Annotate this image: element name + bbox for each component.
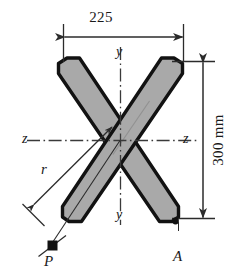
point-a-marker-icon bbox=[172, 218, 179, 225]
radius-reference-line bbox=[53, 141, 121, 243]
point-a-marker-group bbox=[172, 218, 179, 231]
y-axis-label-top: y bbox=[116, 44, 122, 60]
z-axis-label-left: z bbox=[22, 131, 27, 147]
radius-label: r bbox=[41, 161, 47, 178]
point-a-label: A bbox=[173, 248, 182, 265]
point-p-label: P bbox=[44, 253, 53, 270]
radius-witness-tick bbox=[23, 204, 45, 226]
width-dimension-label: 225 bbox=[89, 9, 112, 26]
cross-section-figure: 225 300 mm y y z z r P A bbox=[0, 0, 241, 277]
z-axis-label-right: z bbox=[183, 131, 188, 147]
figure-drawing-canvas bbox=[0, 0, 241, 277]
y-axis-label-bottom: y bbox=[116, 207, 122, 223]
height-dimension-label: 300 mm bbox=[210, 114, 227, 165]
square-point-marker-icon bbox=[48, 241, 58, 251]
